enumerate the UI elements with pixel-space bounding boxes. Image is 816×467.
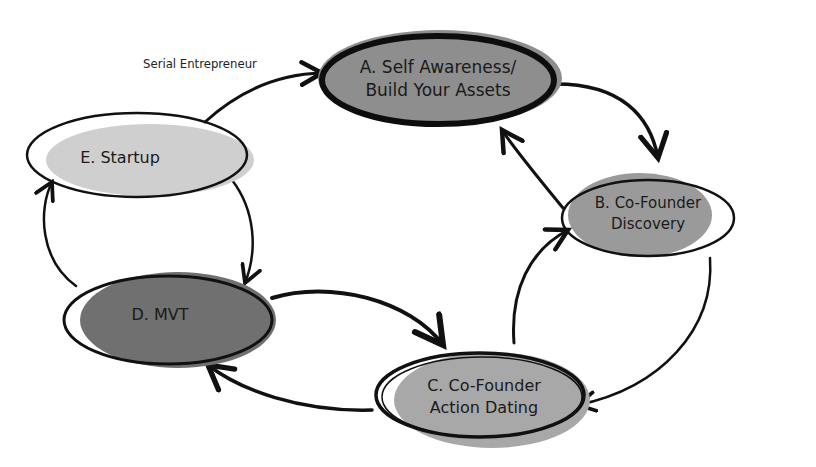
arrow-e-to-a [205,73,322,122]
arrow-e-to-d [232,180,253,283]
svg-text:Action Dating: Action Dating [430,398,538,417]
arrow-c-to-b [513,230,568,343]
cycle-diagram: Serial Entrepreneur A. Self Awareness/ B… [0,0,816,467]
svg-text:B. Co-Founder: B. Co-Founder [595,194,702,212]
serial-entrepreneur-label: Serial Entrepreneur [143,56,257,71]
node-d-mvt: D. MVT [64,272,276,368]
node-c-cofounder-action-dating: C. Co-Founder Action Dating [376,352,590,448]
arrow-b-to-c [578,258,710,405]
arrow-c-to-d [208,365,372,410]
node-a-self-awareness: A. Self Awareness/ Build Your Assets [318,30,562,126]
arrow-d-to-e [44,182,76,286]
svg-text:A. Self Awareness/: A. Self Awareness/ [360,57,517,77]
node-b-cofounder-discovery: B. Co-Founder Discovery [562,173,734,257]
arrow-d-to-c [272,291,443,345]
arrow-a-to-b [556,84,658,158]
arrow-b-to-a [502,130,563,208]
svg-text:D. MVT: D. MVT [131,305,188,324]
svg-text:C. Co-Founder: C. Co-Founder [427,376,541,395]
svg-text:Build Your Assets: Build Your Assets [365,80,510,100]
svg-text:Discovery: Discovery [611,215,685,233]
svg-text:E. Startup: E. Startup [80,148,160,167]
node-e-startup: E. Startup [27,113,254,197]
